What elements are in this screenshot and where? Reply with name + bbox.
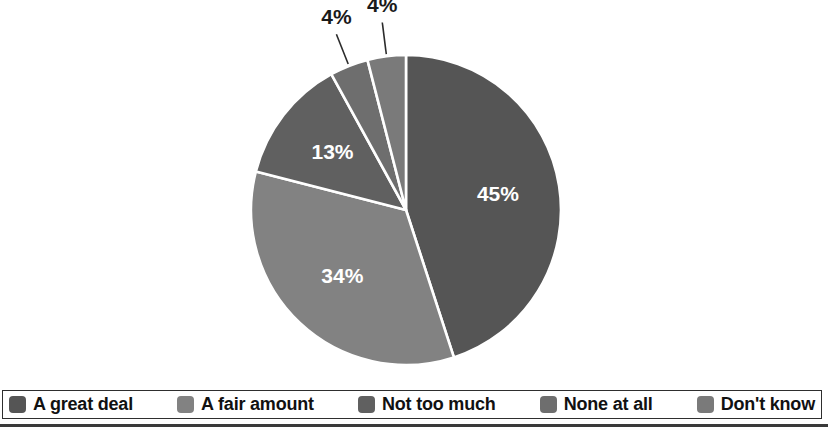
legend-swatch-icon	[177, 396, 194, 413]
legend-swatch-icon	[697, 396, 714, 413]
pie-slice-value-label: 4%	[321, 5, 352, 28]
legend-item-not-too-much[interactable]: Not too much	[358, 394, 496, 415]
pie-chart-svg: 45%34%13%4%4%	[0, 0, 828, 388]
legend: A great deal A fair amount Not too much …	[2, 390, 822, 419]
legend-label: None at all	[564, 394, 653, 415]
pie-chart-area: 45%34%13%4%4%	[0, 0, 828, 388]
legend-label: A fair amount	[201, 394, 314, 415]
pie-slice-value-label: 13%	[311, 140, 353, 163]
legend-bottom-rule	[0, 424, 828, 427]
legend-item-none-at-all[interactable]: None at all	[540, 394, 653, 415]
pie-slice-value-label: 4%	[367, 0, 398, 16]
pie-slice-value-label: 45%	[477, 182, 519, 205]
pie-slice-value-label: 34%	[321, 264, 363, 287]
pie-chart-page: 45%34%13%4%4% A great deal A fair amount…	[0, 0, 828, 436]
legend-item-a-great-deal[interactable]: A great deal	[9, 394, 133, 415]
legend-label: A great deal	[33, 394, 133, 415]
legend-swatch-icon	[358, 396, 375, 413]
legend-item-a-fair-amount[interactable]: A fair amount	[177, 394, 314, 415]
legend-label: Don't know	[721, 394, 815, 415]
legend-swatch-icon	[540, 396, 557, 413]
pie-label-leader-line	[382, 23, 386, 55]
pie-label-leader-line	[336, 34, 348, 64]
legend-swatch-icon	[9, 396, 26, 413]
legend-label: Not too much	[382, 394, 496, 415]
legend-item-dont-know[interactable]: Don't know	[697, 394, 815, 415]
pie-slices-group	[251, 55, 561, 365]
